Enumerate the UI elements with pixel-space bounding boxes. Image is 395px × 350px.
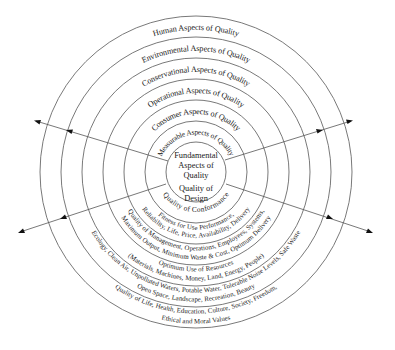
label-operational: Operational Aspects of Quality [146,86,247,110]
label-conservational: Conservational Aspects of Quality [140,65,252,89]
bottom-ring-labels: Quality of Conformance Fitness for Use P… [91,190,302,325]
arrowhead-lower-left-outer-icon [18,229,25,234]
spoke-upper-left [36,121,168,161]
label-environmental-line-1: Ecology, Clean Air, Unpolluted Waters, P… [91,229,302,293]
label-environmental: Environmental Aspects of Quality [140,44,252,65]
spoke-upper-right [225,121,351,160]
arrowhead-lower-right-outer-icon [366,229,373,234]
arrowhead-upper-right-outer-icon [346,120,353,125]
center-line-5: Design [184,194,209,203]
quality-aspects-diagram: Fundamental Aspects of Quality Quality o… [0,0,395,350]
arrowhead-lower-right-inner-icon [326,215,333,220]
center-line-3: Quality [183,171,209,180]
center-line-2: Aspects of [178,161,214,170]
label-human-line-2: Ethical and Moral Values [161,314,231,325]
center-line-4: Quality of [179,184,213,193]
center-label: Fundamental Aspects of Quality Quality o… [174,151,218,203]
arrowhead-upper-left-outer-icon [34,120,41,125]
center-line-1: Fundamental [174,151,218,160]
label-human: Human Aspects of Quality [152,23,241,39]
arrowhead-lower-left-inner-icon [60,215,67,220]
